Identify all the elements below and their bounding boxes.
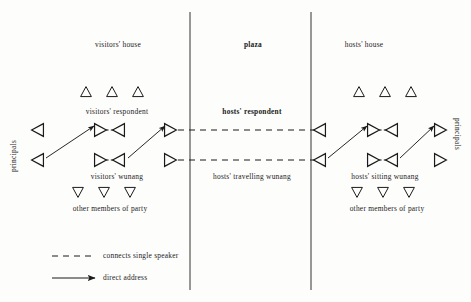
v-wunang-speaker-marker bbox=[95, 154, 107, 167]
zone-label-visitors-house: visitors' house bbox=[95, 41, 141, 48]
group-label-visitors-respondent: visitors' respondent bbox=[86, 108, 148, 115]
h-resp-3-marker bbox=[406, 87, 417, 97]
legend-samples bbox=[52, 256, 95, 278]
side-label-principals-left: principals bbox=[10, 140, 17, 172]
h-principal-upper-marker bbox=[435, 124, 447, 137]
v-party-2-marker bbox=[99, 187, 110, 197]
h-plaza-lower-marker bbox=[314, 154, 326, 167]
zone-dividers bbox=[190, 12, 311, 290]
v-resp-3-marker bbox=[133, 87, 144, 97]
legend-label-legend-dashed: connects single speaker bbox=[103, 252, 179, 259]
v-party-3-marker bbox=[125, 187, 136, 197]
v-resp-1-marker bbox=[81, 87, 92, 97]
v-principal-lower-marker bbox=[32, 154, 44, 167]
group-label-visitors-wunang: visitors' wunang bbox=[91, 173, 143, 180]
v-resp-2-marker bbox=[107, 87, 118, 97]
zone-label-hosts-house: hosts' house bbox=[345, 41, 384, 48]
arrow-v-principal-to-respondent bbox=[46, 126, 94, 158]
h-principal-lower-marker bbox=[435, 154, 447, 167]
side-label-principals-right: principals bbox=[454, 118, 461, 150]
v-wunang-listener-marker bbox=[113, 154, 125, 167]
group-label-hosts-respondent: hosts' respondent bbox=[222, 108, 281, 115]
v-respondent-speaker-marker bbox=[95, 124, 107, 137]
diagram-vector-layer bbox=[0, 0, 471, 302]
h-party-3-marker bbox=[404, 187, 415, 197]
h-resp-2-marker bbox=[380, 87, 391, 97]
h-plaza-upper-marker bbox=[314, 124, 326, 137]
v-principal-upper-marker bbox=[32, 124, 44, 137]
arrow-v-wunang-to-plaza bbox=[128, 126, 165, 158]
h-party-1-marker bbox=[352, 187, 363, 197]
v-party-1-marker bbox=[73, 187, 84, 197]
h-wunang-listener-marker bbox=[386, 124, 398, 137]
diagram-canvas: visitors' houseplazahosts' housevisitors… bbox=[0, 0, 471, 302]
v-plaza-lower-marker bbox=[165, 154, 177, 167]
legend-label-legend-arrow: direct address bbox=[103, 274, 147, 281]
group-label-other-members-right: other members of party bbox=[350, 205, 425, 212]
h-sitting-listener-marker bbox=[386, 154, 398, 167]
arrow-h-plaza-to-wunang bbox=[328, 126, 367, 158]
zone-label-plaza: plaza bbox=[244, 41, 262, 48]
v-plaza-upper-marker bbox=[165, 124, 177, 137]
h-party-2-marker bbox=[378, 187, 389, 197]
h-resp-1-marker bbox=[354, 87, 365, 97]
group-label-hosts-sitting-wunang: hosts' sitting wunang bbox=[351, 173, 418, 180]
arrow-h-sitting-to-principal bbox=[400, 126, 434, 158]
v-respondent-listener-marker bbox=[113, 124, 125, 137]
group-label-hosts-travelling-wunang: hosts' travelling wunang bbox=[213, 173, 291, 180]
h-sitting-speaker-marker bbox=[368, 154, 380, 167]
h-wunang-speaker-marker bbox=[368, 124, 380, 137]
group-label-other-members-left: other members of party bbox=[73, 205, 148, 212]
single-speaker-links bbox=[178, 130, 314, 160]
